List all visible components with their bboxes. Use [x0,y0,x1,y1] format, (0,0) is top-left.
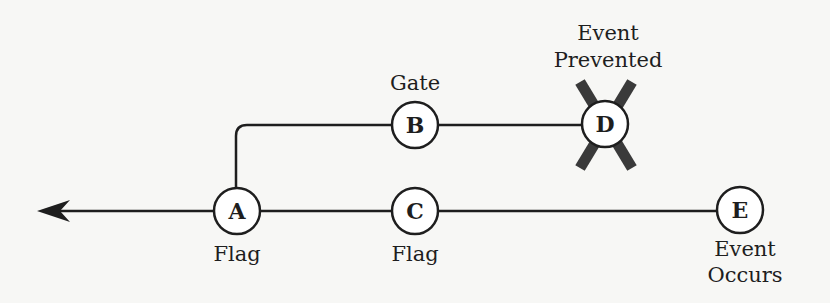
node-c-letter: C [406,198,424,224]
node-a-letter: A [227,198,246,224]
node-d-label-line2: Prevented [554,48,663,72]
event-tree-diagram: A Flag C Flag E Event Occurs B Gate D Ev… [0,0,830,303]
node-b-letter: B [406,112,425,138]
node-b: B Gate [390,71,440,148]
node-e: E Event Occurs [707,187,782,287]
node-e-letter: E [732,197,749,223]
node-c: C Flag [391,188,438,266]
node-d-letter: D [595,111,614,137]
node-d: D Event Prevented [554,21,663,147]
node-d-label-line1: Event [577,21,639,45]
node-e-label-line1: Event [714,237,776,261]
node-a-label: Flag [213,242,260,266]
node-b-label: Gate [390,71,440,95]
main-timeline [37,200,717,222]
node-a: A Flag [213,188,260,266]
node-e-label-line2: Occurs [707,263,782,287]
node-c-label: Flag [391,242,438,266]
